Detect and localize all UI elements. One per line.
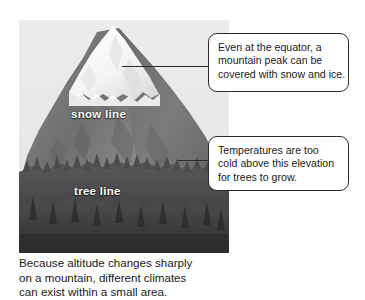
- tree-line-label: tree line: [74, 185, 121, 197]
- callout-peak-line-1: Even at the equator, a: [218, 41, 339, 54]
- callout-treeline-line-2: cold above this elevation: [218, 157, 339, 170]
- figure-caption: Because altitude changes sharply on a mo…: [19, 256, 229, 300]
- callout-treeline-line-3: for trees to grow.: [218, 171, 339, 184]
- mountain-photo: snow line tree line: [19, 20, 229, 253]
- caption-line-1: Because altitude changes sharply: [19, 256, 229, 271]
- caption-line-3: can exist within a small area.: [19, 285, 229, 300]
- caption-line-2: on a mountain, different climates: [19, 271, 229, 286]
- leader-line-treeline: [178, 160, 210, 161]
- callout-treeline: Temperatures are too cold above this ele…: [208, 136, 349, 191]
- callout-peak: Even at the equator, a mountain peak can…: [208, 33, 349, 92]
- snow-line-label: snow line: [71, 108, 126, 120]
- callout-peak-line-3: covered with snow and ice.: [218, 68, 339, 81]
- callout-peak-line-2: mountain peak can be: [218, 54, 339, 67]
- mountain-illustration: [19, 20, 229, 253]
- callout-treeline-line-1: Temperatures are too: [218, 144, 339, 157]
- leader-line-peak: [122, 66, 210, 67]
